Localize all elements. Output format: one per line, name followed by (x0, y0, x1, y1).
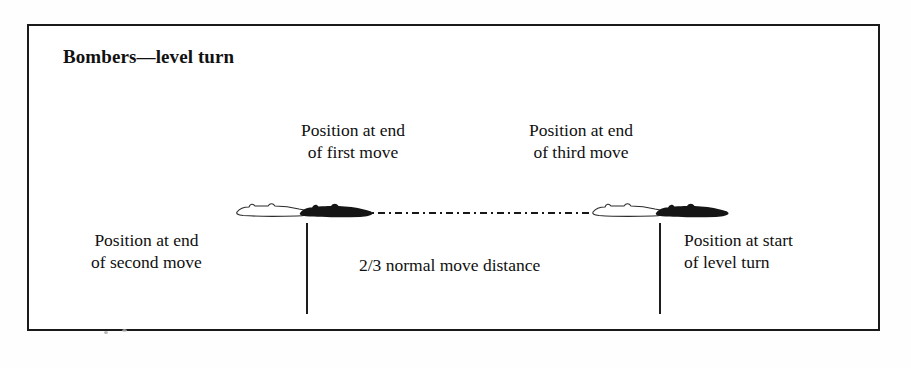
caption-start-of-level-turn: Position at start of level turn (684, 229, 793, 274)
caption-line: Position at end (529, 119, 633, 141)
caption-move-distance: 2/3 normal move distance (359, 254, 540, 276)
scan-speck (104, 331, 108, 334)
figure-title: Bombers—level turn (63, 46, 234, 68)
caption-line: of second move (91, 251, 202, 273)
scan-speck (122, 329, 127, 332)
caption-end-of-second-move: Position at end of second move (91, 229, 202, 274)
measurement-tick-right (659, 223, 661, 314)
caption-line: of third move (529, 141, 633, 163)
caption-line: of level turn (684, 251, 793, 273)
caption-end-of-third-move: Position at end of third move (529, 119, 633, 164)
caption-end-of-first-move: Position at end of first move (301, 119, 405, 164)
caption-line: of first move (301, 141, 405, 163)
scanned-page: Bombers—level turn Position at end of fi… (0, 0, 911, 368)
bomber-solid-silhouette (653, 196, 731, 222)
bomber-solid-silhouette (297, 196, 375, 222)
caption-line: Position at end (91, 229, 202, 251)
caption-line: Position at end (301, 119, 405, 141)
measurement-tick-left (306, 223, 308, 314)
caption-line: Position at start (684, 229, 793, 251)
figure-frame: Bombers—level turn Position at end of fi… (27, 24, 880, 331)
